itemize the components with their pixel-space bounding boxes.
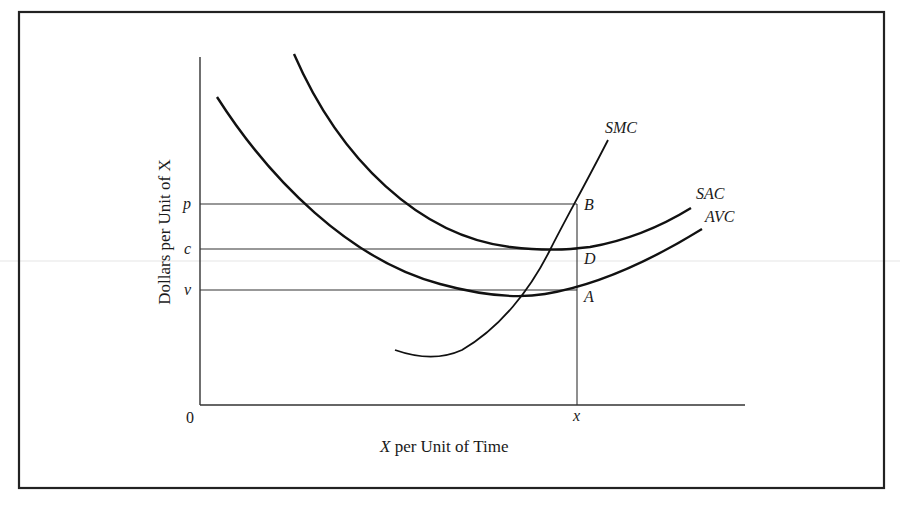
sac-label: SAC xyxy=(696,185,725,202)
sac-curve xyxy=(294,54,691,250)
point-b-label: B xyxy=(584,196,594,213)
figure-frame xyxy=(19,12,884,488)
point-d-label: D xyxy=(583,250,596,267)
cost-curves-figure: SMC SAC AVC B D A p c v 0 x X per Unit o… xyxy=(0,0,900,511)
y-tick-p: p xyxy=(182,195,191,213)
smc-label: SMC xyxy=(605,119,637,136)
y-tick-v: v xyxy=(184,281,192,298)
avc-label: AVC xyxy=(704,208,735,225)
point-a-label: A xyxy=(583,288,594,305)
y-axis-label: Dollars per Unit of X xyxy=(155,159,174,304)
x-axis-label-rest: per Unit of Time xyxy=(390,437,508,456)
x-axis-label: X per Unit of Time xyxy=(379,437,508,456)
x-tick-x: x xyxy=(572,407,580,424)
y-tick-c: c xyxy=(184,240,191,257)
origin-label: 0 xyxy=(186,409,194,426)
x-axis-label-var: X xyxy=(379,437,391,456)
